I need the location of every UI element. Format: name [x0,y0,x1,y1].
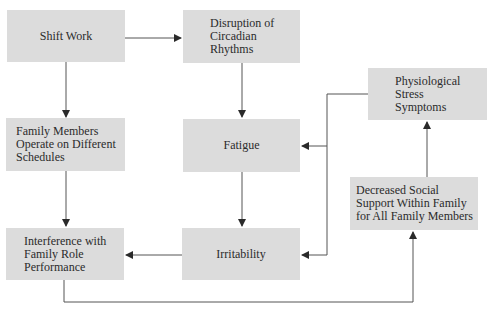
node-family-members-different-schedules: Family Members Operate on Different Sche… [6,118,125,171]
node-shift-work: Shift Work [7,10,125,62]
node-label: Fatigue [224,139,260,152]
node-irritability: Irritability [182,228,300,280]
node-decreased-social-support: Decreased Social Support Within Family f… [350,177,478,230]
node-label: Interference with Family Role Performanc… [24,235,106,274]
node-label: Disruption of Circadian Rhythms [210,17,274,56]
node-label: Decreased Social Support Within Family f… [356,184,473,223]
node-label: Physiological Stress Symptoms [395,75,460,114]
node-label: Shift Work [40,30,92,43]
node-label: Irritability [216,248,265,261]
node-interference-family-role: Interference with Family Role Performanc… [6,228,124,280]
node-physiological-stress-symptoms: Physiological Stress Symptoms [368,68,487,120]
node-label: Family Members Operate on Different Sche… [16,125,116,164]
node-fatigue: Fatigue [183,119,300,172]
node-disruption-of-circadian-rhythms: Disruption of Circadian Rhythms [183,10,300,63]
edge-physiological-branch [327,94,368,255]
